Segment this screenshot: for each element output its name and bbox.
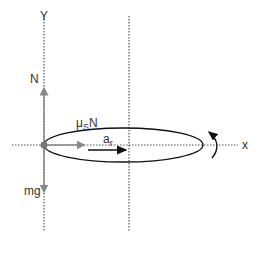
friction-force-label: μSN: [76, 116, 98, 132]
x-axis-label: x: [242, 138, 248, 152]
y-axis-label: Y: [40, 9, 48, 23]
acceleration-label: ar: [103, 132, 113, 148]
free-body-diagram: Y x N mg μSN ar: [0, 0, 262, 258]
weight-force-label: mg: [24, 184, 41, 198]
origin-dot: [41, 142, 48, 149]
normal-force-label: N: [30, 72, 39, 86]
